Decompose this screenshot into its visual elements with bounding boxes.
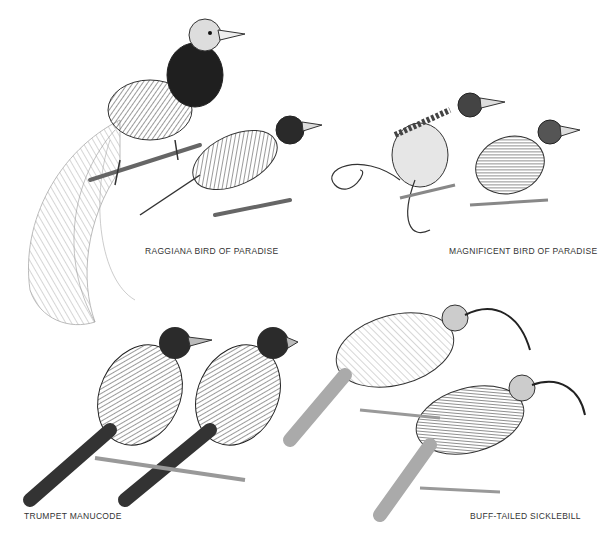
manucode-caption: TRUMPET MANUCODE	[24, 511, 122, 521]
buff-tailed-sicklebill-birds	[290, 301, 585, 515]
magnificent-caption: MAGNIFICENT BIRD OF PARADISE	[449, 246, 597, 256]
magnificent-female-bird	[468, 120, 580, 205]
sicklebill-caption: BUFF-TAILED SICKLEBILL	[470, 511, 581, 521]
illustration-plate	[0, 0, 604, 544]
trumpet-manucode-birds	[30, 327, 298, 500]
raggiana-caption: RAGGIANA BIRD OF PARADISE	[145, 246, 278, 256]
